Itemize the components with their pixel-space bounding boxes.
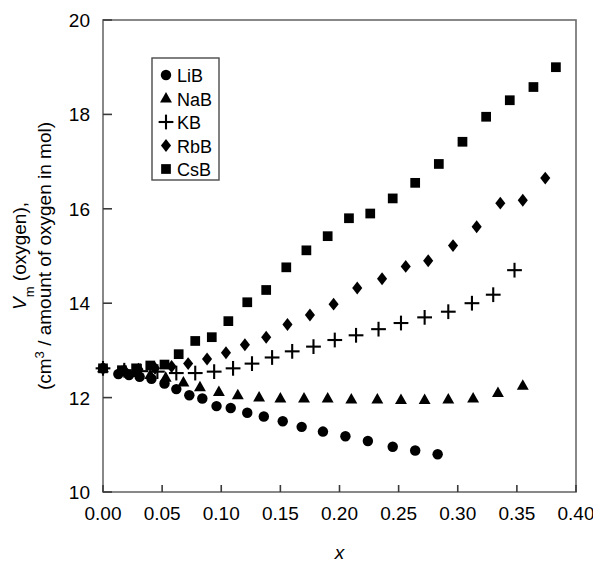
data-point	[318, 426, 328, 436]
data-point	[401, 260, 411, 273]
y-tick-label: 18	[69, 104, 90, 125]
data-point	[211, 401, 221, 411]
data-point	[495, 197, 505, 210]
x-tick-label: 0.25	[380, 503, 417, 524]
legend-marker-circle-icon	[161, 70, 171, 80]
data-point	[492, 386, 504, 396]
data-point	[329, 298, 339, 311]
data-point	[207, 332, 217, 342]
legend-label: KB	[177, 113, 201, 133]
data-point	[225, 403, 235, 413]
data-point	[259, 411, 269, 421]
data-point	[177, 376, 189, 386]
data-point	[131, 363, 141, 373]
legend-label: RbB	[177, 137, 212, 157]
data-point	[261, 285, 271, 295]
data-point	[388, 194, 398, 204]
data-point	[265, 350, 280, 365]
data-point	[242, 297, 252, 307]
data-point	[174, 349, 184, 359]
data-point	[160, 360, 170, 370]
data-point	[540, 172, 550, 185]
data-point	[232, 389, 244, 399]
data-point	[98, 363, 108, 373]
x-axis-title-text: x	[334, 542, 346, 563]
data-point	[349, 328, 364, 343]
x-tick-label: 0.30	[439, 503, 476, 524]
data-point	[395, 393, 407, 403]
x-tick-label: 0.15	[262, 503, 299, 524]
data-point	[448, 239, 458, 252]
x-axis-tick-labels: 0.000.050.100.150.200.250.300.350.40	[85, 503, 593, 524]
data-point	[441, 304, 456, 319]
data-point	[213, 385, 225, 395]
x-tick-label: 0.20	[321, 503, 358, 524]
data-point	[184, 390, 194, 400]
data-point	[245, 356, 260, 371]
data-point	[410, 445, 420, 455]
data-point	[274, 392, 286, 402]
data-point	[507, 263, 522, 278]
data-point	[183, 357, 193, 370]
data-point	[377, 272, 387, 285]
x-tick-label: 0.40	[558, 503, 593, 524]
data-point	[296, 422, 306, 432]
x-tick-label: 0.00	[85, 503, 122, 524]
data-point	[344, 213, 354, 223]
y-tick-label: 10	[69, 482, 90, 503]
data-point	[253, 391, 265, 401]
data-point	[371, 393, 383, 403]
data-point	[467, 392, 479, 402]
data-point	[302, 245, 312, 255]
data-point	[327, 333, 342, 348]
y-axis-ticks	[103, 20, 112, 492]
data-point	[486, 287, 501, 302]
data-point	[363, 436, 373, 446]
data-point	[282, 318, 292, 331]
y-axis-title-line1: Vm (oxygen),	[9, 202, 37, 310]
x-axis-ticks	[103, 485, 576, 492]
y-tick-label: 20	[69, 10, 90, 31]
data-point	[458, 137, 468, 147]
y-axis-tick-labels: 101214161820	[69, 10, 91, 503]
data-point	[261, 331, 271, 344]
y-tick-label: 16	[69, 199, 90, 220]
data-point	[190, 336, 200, 346]
legend-label: NaB	[177, 90, 212, 110]
data-point	[505, 95, 515, 105]
data-point	[285, 344, 300, 359]
y-tick-label: 12	[69, 388, 90, 409]
data-point	[410, 178, 420, 188]
data-point	[145, 361, 155, 371]
data-point	[340, 431, 350, 441]
x-tick-label: 0.35	[498, 503, 535, 524]
data-point	[278, 416, 288, 426]
series-rbb	[98, 172, 550, 377]
data-point	[207, 364, 222, 379]
data-point	[221, 346, 231, 359]
chart-legend: LiBNaBKBRbBCsB	[152, 58, 219, 180]
data-point	[434, 159, 444, 169]
y-axis-title: Vm (oxygen),(cm3 / amount of oxygen in m…	[9, 122, 55, 390]
y-axis-title-line2: (cm3 / amount of oxygen in mol)	[32, 122, 56, 390]
x-tick-label: 0.10	[203, 503, 240, 524]
data-point	[345, 393, 357, 403]
data-point	[306, 339, 321, 354]
data-point	[194, 381, 206, 391]
data-point	[387, 441, 397, 451]
data-point	[472, 220, 482, 233]
data-point	[197, 393, 207, 403]
data-point	[371, 322, 386, 337]
data-point	[432, 449, 442, 459]
data-point	[242, 407, 252, 417]
series-kb	[96, 263, 522, 381]
data-point	[365, 209, 375, 219]
legend-label: CsB	[177, 160, 211, 180]
data-point	[226, 361, 241, 376]
data-point	[423, 254, 433, 267]
chart-figure: 0.000.050.100.150.200.250.300.350.40 101…	[0, 0, 593, 571]
data-point	[117, 365, 127, 375]
x-tick-label: 0.05	[144, 503, 181, 524]
legend-marker-square-icon	[161, 164, 171, 174]
data-point	[518, 194, 528, 207]
